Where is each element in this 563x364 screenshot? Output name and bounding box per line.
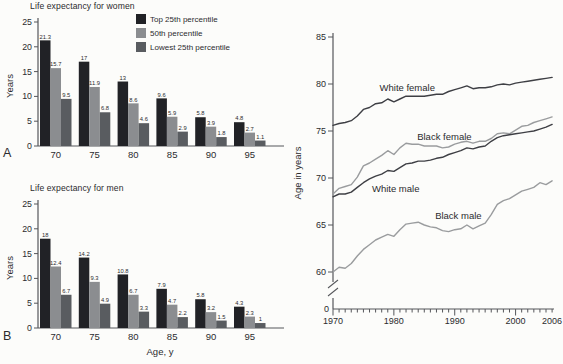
y-tick-label: 20 bbox=[22, 42, 32, 52]
bar bbox=[118, 82, 129, 146]
y-tick-label: 70 bbox=[316, 173, 326, 183]
bar bbox=[156, 289, 167, 328]
category-label: 80 bbox=[128, 331, 139, 342]
series-line-black-male bbox=[333, 181, 552, 272]
bar-value-label: 4.9 bbox=[101, 297, 109, 303]
y-tick-label: 15 bbox=[22, 249, 32, 259]
origin-label: 0 bbox=[324, 304, 329, 314]
bar-value-label: 2.9 bbox=[179, 125, 187, 131]
y-tick-label: 0 bbox=[27, 141, 32, 151]
bar-value-label: 11.9 bbox=[89, 80, 100, 86]
bar-value-label: 13 bbox=[120, 75, 126, 81]
bar bbox=[100, 112, 111, 146]
bar-value-label: 4.7 bbox=[168, 298, 176, 304]
bar-value-label: 15.7 bbox=[50, 61, 61, 67]
y-tick-label: 65 bbox=[316, 220, 326, 230]
bar-value-label: 5.9 bbox=[168, 110, 176, 116]
bar bbox=[216, 321, 227, 328]
bar bbox=[128, 295, 139, 328]
y-tick-label: 5 bbox=[27, 298, 32, 308]
bar-value-label: 3.2 bbox=[207, 305, 215, 311]
bar bbox=[61, 295, 72, 328]
bar bbox=[255, 141, 266, 146]
y-tick-label: 25 bbox=[22, 17, 32, 27]
bar-value-label: 4.3 bbox=[235, 300, 243, 306]
x-axis-label-men: Age, y bbox=[105, 346, 215, 357]
bar bbox=[234, 122, 245, 146]
bar-value-label: 3.3 bbox=[140, 305, 148, 311]
trend-line-chart-canvas: 606570758085019701980199020002006White f… bbox=[290, 0, 563, 364]
bar-value-label: 6.7 bbox=[129, 288, 137, 294]
y-tick-label: 60 bbox=[316, 267, 326, 277]
x-tick-label: 2006 bbox=[542, 316, 562, 326]
bar bbox=[40, 40, 51, 146]
category-label: 75 bbox=[89, 149, 100, 160]
bar bbox=[255, 323, 266, 328]
bar bbox=[40, 239, 51, 328]
bar-value-label: 1.5 bbox=[217, 314, 225, 320]
bar-value-label: 4.8 bbox=[235, 115, 243, 121]
bar-value-label: 6.7 bbox=[62, 288, 70, 294]
bar bbox=[100, 304, 111, 328]
axis-break-icon bbox=[328, 288, 338, 296]
y-tick-label: 75 bbox=[316, 126, 326, 136]
bar bbox=[167, 117, 178, 146]
bar-value-label: 10.8 bbox=[117, 268, 128, 274]
bar bbox=[89, 87, 100, 146]
bar bbox=[79, 258, 90, 328]
series-label-white-female: White female bbox=[380, 82, 435, 93]
category-label: 85 bbox=[167, 149, 178, 160]
bar bbox=[128, 103, 139, 146]
bar bbox=[61, 99, 72, 146]
category-label: 85 bbox=[167, 331, 178, 342]
men-bar-chart-panel: Life expectancy for men Years 0510152025… bbox=[0, 182, 290, 364]
bar-value-label: 9.3 bbox=[91, 275, 99, 281]
bar bbox=[79, 62, 90, 146]
x-tick-label: 2000 bbox=[506, 316, 526, 326]
series-line-white-female bbox=[333, 77, 552, 125]
bar bbox=[51, 68, 62, 146]
panel-letter-b: B bbox=[3, 329, 11, 343]
bar-value-label: 5.8 bbox=[196, 292, 204, 298]
bar bbox=[206, 312, 217, 328]
y-tick-label: 85 bbox=[316, 32, 326, 42]
bar bbox=[245, 133, 256, 146]
series-line-black-female bbox=[333, 117, 552, 194]
bar bbox=[245, 317, 256, 328]
bar bbox=[216, 137, 227, 146]
x-tick-label: 1980 bbox=[384, 316, 404, 326]
y-tick-label: 25 bbox=[22, 199, 32, 209]
series-label-black-male: Black male bbox=[435, 210, 481, 221]
bar bbox=[139, 123, 150, 146]
series-label-white-male: White male bbox=[372, 183, 420, 194]
bar bbox=[177, 317, 188, 328]
category-label: 70 bbox=[50, 149, 61, 160]
bar-value-label: 4.6 bbox=[140, 116, 148, 122]
y-tick-label: 10 bbox=[22, 91, 32, 101]
bar-value-label: 12.4 bbox=[50, 260, 62, 266]
bar bbox=[156, 98, 167, 146]
series-label-black-female: Black female bbox=[417, 131, 471, 142]
bar-value-label: 21.3 bbox=[40, 34, 51, 40]
category-label: 80 bbox=[128, 149, 139, 160]
bar bbox=[167, 305, 178, 328]
y-tick-label: 80 bbox=[316, 79, 326, 89]
bar-value-label: 9.6 bbox=[158, 92, 166, 98]
bar-value-label: 1 bbox=[259, 316, 262, 322]
women-bar-chart-panel: Life expectancy for women Years Top 25th… bbox=[0, 0, 290, 182]
bar bbox=[195, 299, 206, 328]
bar bbox=[234, 307, 245, 328]
bar bbox=[206, 127, 217, 146]
bar bbox=[139, 312, 150, 328]
bar-value-label: 2.3 bbox=[246, 310, 254, 316]
trend-line-chart-panel: Age in years 606570758085019701980199020… bbox=[290, 0, 563, 364]
y-tick-label: 20 bbox=[22, 224, 32, 234]
bar-value-label: 7.9 bbox=[158, 282, 166, 288]
women-bar-chart-canvas: 051015202521.315.79.5701711.96.875138.64… bbox=[0, 0, 290, 182]
bar-value-label: 3.9 bbox=[207, 120, 215, 126]
panel-letter-a: A bbox=[3, 146, 11, 160]
category-label: 90 bbox=[206, 331, 217, 342]
category-label: 70 bbox=[50, 331, 61, 342]
category-label: 95 bbox=[244, 149, 255, 160]
bar-value-label: 18 bbox=[42, 232, 48, 238]
